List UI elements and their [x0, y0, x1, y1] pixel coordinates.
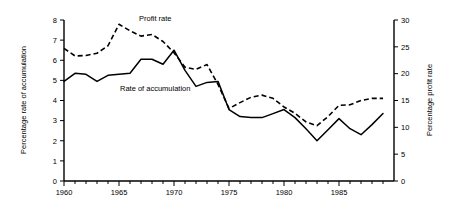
x-tick-label: 1970 [166, 188, 183, 197]
series-label-rate-of-accumulation: Rate of accumulation [120, 84, 190, 93]
right-tick-label: 10 [401, 123, 409, 132]
right-tick-label: 25 [401, 43, 409, 52]
left-tick-label: 8 [53, 16, 57, 25]
y-axis-title-right: Percentage profit rate [425, 64, 434, 136]
data-series-group [64, 24, 383, 140]
right-tick-label: 20 [401, 69, 409, 78]
left-tick-label: 5 [53, 76, 57, 85]
right-axis-ticks: 051015202530 [394, 16, 409, 186]
accumulation-profit-line-chart: 012345678 051015202530 19601965197019751… [0, 0, 457, 216]
x-tick-label: 1975 [221, 188, 238, 197]
right-tick-label: 5 [401, 150, 405, 159]
y-axis-title-left: Percentage rate of accumulation [19, 46, 28, 154]
left-tick-label: 2 [53, 137, 57, 146]
right-tick-label: 0 [401, 177, 405, 186]
left-tick-label: 0 [53, 177, 57, 186]
chart-container: 012345678 051015202530 19601965197019751… [0, 0, 457, 216]
series-line-rate-of-accumulation [64, 50, 383, 141]
x-axis-ticks: 196019651970197519801985 [56, 181, 383, 197]
left-tick-label: 6 [53, 56, 57, 65]
left-axis-ticks: 012345678 [53, 16, 64, 186]
x-tick-label: 1965 [111, 188, 128, 197]
left-tick-label: 7 [53, 36, 57, 45]
right-tick-label: 15 [401, 96, 409, 105]
left-tick-label: 3 [53, 116, 57, 125]
series-label-profit-rate: Profit rate [139, 14, 172, 23]
x-tick-label: 1985 [331, 188, 348, 197]
right-tick-label: 30 [401, 16, 409, 25]
series-annotations: Profit rate Rate of accumulation [120, 14, 190, 93]
left-tick-label: 4 [53, 96, 57, 105]
left-tick-label: 1 [53, 157, 57, 166]
axes [64, 20, 394, 181]
x-tick-label: 1960 [56, 188, 73, 197]
x-tick-label: 1980 [276, 188, 293, 197]
